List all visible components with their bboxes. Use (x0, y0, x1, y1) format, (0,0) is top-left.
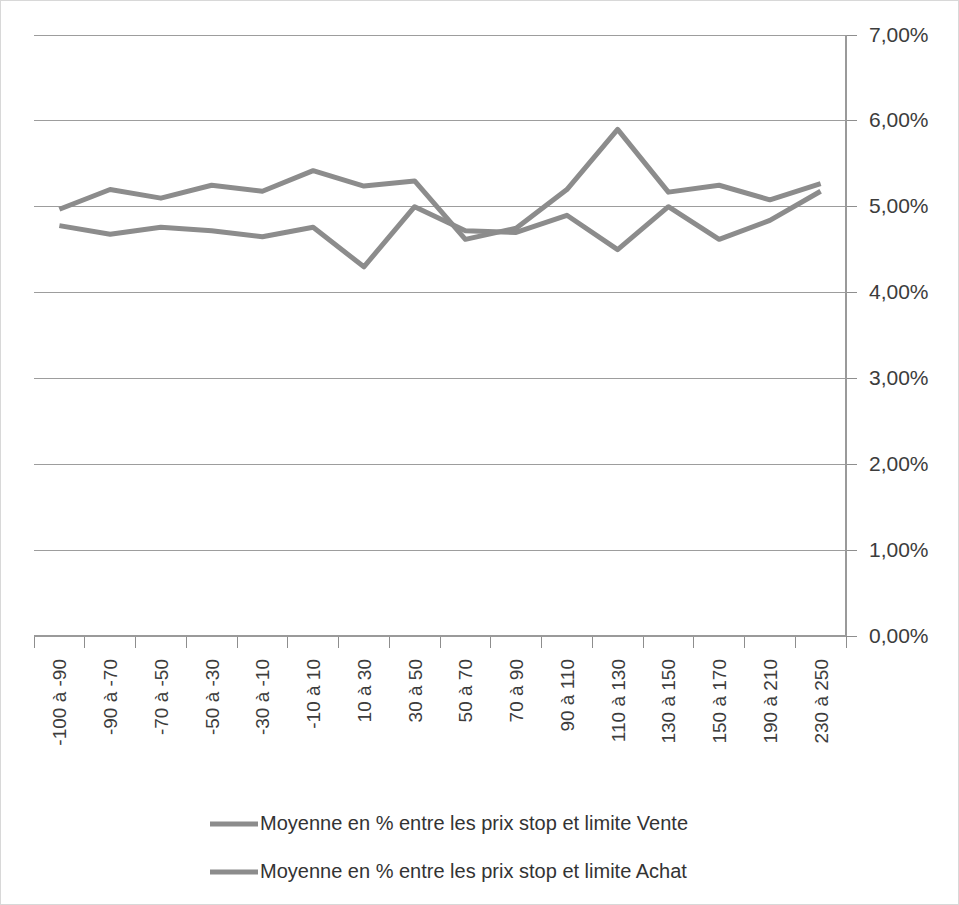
x-axis-tick-label: 130 à 150 (658, 659, 679, 744)
series-lines (59, 129, 820, 266)
y-axis-tick-label: 7,00% (869, 23, 929, 46)
series-line-2 (59, 191, 820, 267)
x-axis-tick-label: -30 à -10 (252, 659, 273, 735)
x-axis-tick-label: 110 à 130 (608, 659, 629, 742)
x-axis-tick-label: 50 à 70 (455, 659, 476, 722)
y-axis-tick-label: 5,00% (869, 194, 929, 217)
x-axis-tick-label: 190 à 210 (760, 659, 781, 744)
x-axis-tick-label: 150 à 170 (709, 659, 730, 744)
line-chart: 0,00%1,00%2,00%3,00%4,00%5,00%6,00%7,00%… (1, 1, 959, 905)
x-axis-tickmarks (34, 636, 846, 648)
y-axis-tick-label: 3,00% (869, 366, 929, 389)
x-axis-tick-label: -100 à -90 (49, 659, 70, 746)
x-axis-tick-label: 70 à 90 (506, 659, 527, 722)
x-axis-tick-label: -10 à 10 (303, 659, 324, 729)
legend-label: Moyenne en % entre les prix stop et limi… (260, 860, 687, 882)
legend-label: Moyenne en % entre les prix stop et limi… (260, 812, 688, 834)
y-axis-tick-label: 0,00% (869, 624, 929, 647)
x-axis-tick-label: -90 à -70 (100, 659, 121, 735)
x-axis-tick-label: 30 à 50 (405, 659, 426, 722)
y-axis-tick-label: 1,00% (869, 538, 929, 561)
x-axis-tick-label: -50 à -30 (202, 659, 223, 735)
y-axis-tickmarks (846, 35, 857, 636)
x-axis-tick-label: 230 à 250 (811, 659, 832, 744)
series-line-1 (59, 129, 820, 239)
chart-container: 0,00%1,00%2,00%3,00%4,00%5,00%6,00%7,00%… (0, 0, 959, 905)
y-axis-tick-label: 4,00% (869, 280, 929, 303)
x-axis-labels: -100 à -90-90 à -70-70 à -50-50 à -30-30… (49, 659, 831, 746)
x-axis-tick-label: 10 à 30 (354, 659, 375, 722)
y-axis-tick-label: 2,00% (869, 452, 929, 475)
x-axis-tick-label: 90 à 110 (557, 659, 578, 732)
x-axis-tick-label: -70 à -50 (151, 659, 172, 735)
chart-legend: Moyenne en % entre les prix stop et limi… (210, 812, 688, 882)
gridlines (34, 35, 846, 550)
y-axis-labels: 0,00%1,00%2,00%3,00%4,00%5,00%6,00%7,00% (869, 23, 929, 647)
y-axis-tick-label: 6,00% (869, 108, 929, 131)
